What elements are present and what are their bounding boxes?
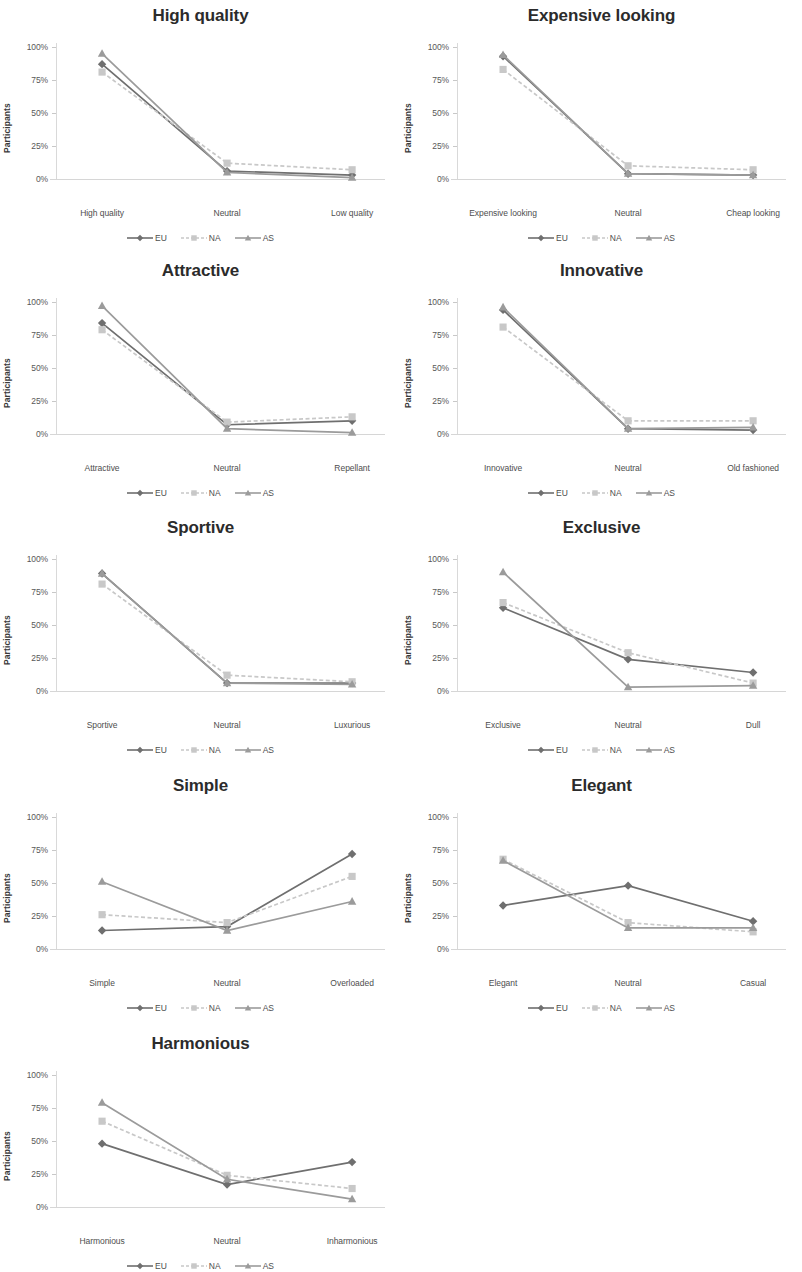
chart-panel-innovative: Innovative0%25%50%75%100%ParticipantsInn…	[401, 255, 802, 512]
legend-label: AS	[664, 488, 675, 498]
legend-item-na[interactable]: NA	[181, 488, 221, 498]
x-tick-label: Neutral	[615, 463, 642, 473]
plot-canvas	[56, 284, 385, 459]
legend-marker-triangle-icon	[636, 745, 662, 755]
y-tick-label: 75%	[4, 845, 48, 855]
x-tick-label: Overloaded	[330, 978, 373, 988]
legend-marker-diamond-icon	[127, 1261, 153, 1271]
plot-area: 0%25%50%75%100%Participants	[401, 29, 802, 204]
series-layer	[56, 284, 385, 459]
x-tick-label: Neutral	[615, 978, 642, 988]
y-tick-label: 75%	[4, 75, 48, 85]
y-tick-label: 100%	[405, 812, 449, 822]
legend-label: NA	[209, 745, 221, 755]
legend-label: EU	[556, 488, 568, 498]
chart-panel-harmonious: Harmonious0%25%50%75%100%ParticipantsHar…	[0, 1028, 401, 1272]
legend-item-eu[interactable]: EU	[528, 233, 568, 243]
legend-item-eu[interactable]: EU	[528, 745, 568, 755]
legend-marker-square-icon	[582, 745, 608, 755]
y-tick-label: 0%	[4, 686, 48, 696]
legend-item-eu[interactable]: EU	[127, 1261, 167, 1271]
x-axis-labels: ExclusiveNeutralDull	[401, 716, 802, 736]
legend-item-as[interactable]: AS	[235, 745, 274, 755]
legend-item-eu[interactable]: EU	[528, 1003, 568, 1013]
y-axis-title-text: Participants	[403, 139, 413, 153]
legend-item-na[interactable]: NA	[582, 488, 622, 498]
x-tick-label: Simple	[89, 978, 115, 988]
legend-item-na[interactable]: NA	[181, 1261, 221, 1271]
y-tick-label: 75%	[4, 1103, 48, 1113]
legend-label: AS	[263, 745, 274, 755]
plot-area: 0%25%50%75%100%Participants	[0, 29, 401, 204]
legend-label: EU	[155, 745, 167, 755]
plot-canvas	[457, 799, 786, 974]
plot-area: 0%25%50%75%100%Participants	[401, 799, 802, 974]
legend-item-as[interactable]: AS	[636, 1003, 675, 1013]
x-axis-labels: AttractiveNeutralRepellant	[0, 459, 401, 479]
chart-title: Elegant	[401, 770, 802, 799]
legend-label: EU	[556, 233, 568, 243]
x-tick-label: Sportive	[87, 720, 118, 730]
legend-item-eu[interactable]: EU	[528, 488, 568, 498]
chart-title: Innovative	[401, 255, 802, 284]
chart-title: High quality	[0, 0, 401, 29]
legend-item-as[interactable]: AS	[636, 233, 675, 243]
legend-item-na[interactable]: NA	[582, 233, 622, 243]
legend-label: AS	[263, 488, 274, 498]
y-tick-label: 100%	[4, 1070, 48, 1080]
legend-marker-diamond-icon	[127, 488, 153, 498]
legend-item-as[interactable]: AS	[235, 488, 274, 498]
legend-marker-diamond-icon	[127, 1003, 153, 1013]
chart-title: Sportive	[0, 512, 401, 541]
legend-item-eu[interactable]: EU	[127, 233, 167, 243]
series-layer	[457, 284, 786, 459]
y-axis-title-text: Participants	[2, 651, 12, 665]
x-tick-label: Neutral	[214, 720, 241, 730]
legend-item-as[interactable]: AS	[636, 488, 675, 498]
series-layer	[56, 541, 385, 716]
legend-label: NA	[209, 233, 221, 243]
chart-legend: EUNAAS	[401, 736, 802, 761]
y-tick-label: 75%	[4, 587, 48, 597]
legend-marker-diamond-icon	[528, 233, 554, 243]
x-tick-label: Low quality	[331, 208, 373, 218]
y-axis-title-text: Participants	[2, 909, 12, 923]
y-axis-title-text: Participants	[2, 139, 12, 153]
plot-canvas	[56, 29, 385, 204]
legend-label: EU	[155, 1003, 167, 1013]
series-layer	[56, 799, 385, 974]
legend-item-na[interactable]: NA	[181, 1003, 221, 1013]
y-axis-title: Participants	[2, 895, 12, 909]
legend-item-as[interactable]: AS	[636, 745, 675, 755]
legend-item-eu[interactable]: EU	[127, 488, 167, 498]
x-axis-labels: InnovativeNeutralOld fashioned	[401, 459, 802, 479]
legend-item-na[interactable]: NA	[582, 1003, 622, 1013]
chart-legend: EUNAAS	[0, 224, 401, 249]
x-tick-label: Neutral	[615, 720, 642, 730]
x-tick-label: Neutral	[615, 208, 642, 218]
legend-item-na[interactable]: NA	[181, 745, 221, 755]
legend-marker-square-icon	[181, 1003, 207, 1013]
x-tick-label: Expensive looking	[469, 208, 537, 218]
x-tick-label: High quality	[80, 208, 124, 218]
chart-panel-attractive: Attractive0%25%50%75%100%ParticipantsAtt…	[0, 255, 401, 512]
legend-item-na[interactable]: NA	[181, 233, 221, 243]
legend-label: AS	[263, 233, 274, 243]
legend-item-as[interactable]: AS	[235, 233, 274, 243]
x-axis-labels: SimpleNeutralOverloaded	[0, 974, 401, 994]
legend-label: NA	[610, 1003, 622, 1013]
legend-item-na[interactable]: NA	[582, 745, 622, 755]
chart-grid: High quality0%25%50%75%100%ParticipantsH…	[0, 0, 802, 1272]
legend-item-eu[interactable]: EU	[127, 745, 167, 755]
chart-title: Simple	[0, 770, 401, 799]
x-tick-label: Exclusive	[485, 720, 520, 730]
legend-item-as[interactable]: AS	[235, 1261, 274, 1271]
y-axis-title: Participants	[2, 125, 12, 139]
series-layer	[457, 29, 786, 204]
legend-marker-diamond-icon	[528, 745, 554, 755]
chart-legend: EUNAAS	[401, 479, 802, 504]
legend-item-eu[interactable]: EU	[127, 1003, 167, 1013]
x-tick-label: Neutral	[214, 208, 241, 218]
y-tick-label: 0%	[405, 944, 449, 954]
legend-item-as[interactable]: AS	[235, 1003, 274, 1013]
